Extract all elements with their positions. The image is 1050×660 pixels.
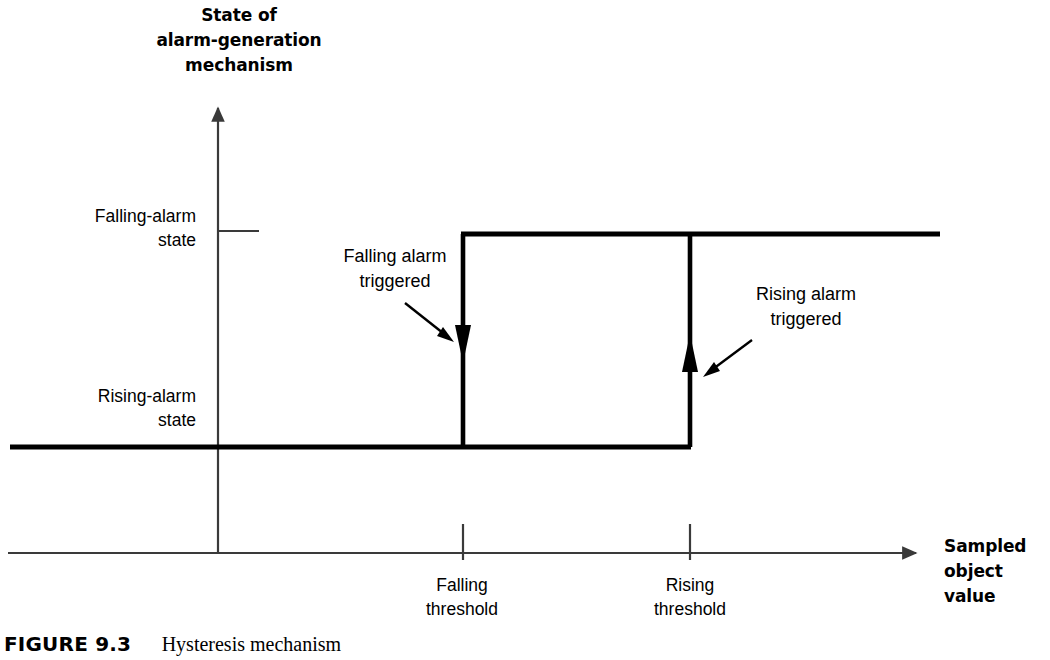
y-tick-label-falling-alarm-state: Falling-alarm state bbox=[95, 206, 196, 250]
x-tick-label-falling-threshold: Falling threshold bbox=[426, 575, 498, 619]
y-axis-title-line-2: alarm-generation bbox=[156, 30, 321, 50]
figure-title: Hysteresis mechanism bbox=[162, 633, 341, 655]
annotation-rising-alarm-triggered: Rising alarm triggered bbox=[756, 284, 856, 329]
y-axis-title-line-3: mechanism bbox=[185, 55, 293, 75]
x-tick-label-rising-line-2: threshold bbox=[654, 599, 726, 619]
figure-caption: FIGURE 9.3 Hysteresis mechanism bbox=[4, 632, 341, 656]
x-tick-label-rising-threshold: Rising threshold bbox=[654, 575, 726, 619]
x-tick-label-falling-line-2: threshold bbox=[426, 599, 498, 619]
y-axis-title-line-1: State of bbox=[201, 5, 277, 25]
figure-hysteresis-mechanism: State of alarm-generation mechanism Samp… bbox=[0, 0, 1050, 660]
x-tick-label-rising-line-1: Rising bbox=[666, 575, 715, 595]
x-axis-title-line-3: value bbox=[944, 586, 996, 606]
falling-transition-arrowhead-icon bbox=[455, 325, 471, 363]
rising-transition-arrowhead-icon bbox=[682, 334, 698, 372]
hysteresis-diagram: State of alarm-generation mechanism Samp… bbox=[0, 0, 1050, 660]
figure-number: FIGURE 9.3 bbox=[4, 632, 131, 656]
tick-marks bbox=[218, 231, 690, 560]
annotation-rising-line-1: Rising alarm bbox=[756, 284, 856, 304]
annotation-rising-line-2: triggered bbox=[770, 309, 841, 329]
y-tick-label-rising-line-2: state bbox=[158, 410, 196, 430]
annotation-falling-line-1: Falling alarm bbox=[343, 246, 446, 266]
annotation-arrows bbox=[405, 303, 752, 377]
y-axis-title: State of alarm-generation mechanism bbox=[156, 5, 321, 75]
hysteresis-curve bbox=[10, 234, 940, 447]
y-tick-label-falling-line-1: Falling-alarm bbox=[95, 206, 196, 226]
y-tick-label-falling-line-2: state bbox=[158, 230, 196, 250]
y-tick-label-rising-alarm-state: Rising-alarm state bbox=[98, 386, 196, 430]
x-axis-title-line-1: Sampled bbox=[944, 536, 1026, 556]
y-tick-label-rising-line-1: Rising-alarm bbox=[98, 386, 196, 406]
x-tick-label-falling-line-1: Falling bbox=[436, 575, 488, 595]
x-axis-title-line-2: object bbox=[944, 561, 1003, 581]
annotation-falling-line-2: triggered bbox=[359, 271, 430, 291]
annotation-falling-alarm-triggered: Falling alarm triggered bbox=[343, 246, 446, 291]
x-axis-title: Sampled object value bbox=[944, 536, 1026, 606]
